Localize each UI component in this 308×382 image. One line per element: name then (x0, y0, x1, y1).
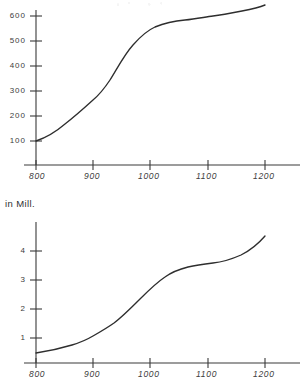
y-tick-label-200: 200 (4, 111, 26, 120)
line-chart-bottom (0, 195, 308, 382)
x-tick-label-1000: 1000 (138, 369, 160, 379)
y-tick-label-400: 400 (4, 61, 26, 70)
y-tick-label-4: 4 (8, 246, 26, 255)
x-tick-label-900: 900 (84, 171, 100, 181)
figure-container: 600 500 400 300 200 100 800 900 1000 110… (0, 0, 308, 382)
line-chart-top (0, 0, 308, 195)
y-tick-label-1: 1 (8, 333, 26, 342)
data-curve-top (36, 5, 265, 141)
x-tick-label-1100: 1100 (196, 171, 217, 181)
y-tick-label-500: 500 (4, 36, 26, 45)
y-tick-label-100: 100 (4, 136, 26, 145)
y-tick-label-600: 600 (4, 11, 26, 20)
x-tick-label-1100: 1100 (196, 369, 217, 379)
axes-top (24, 10, 300, 165)
x-tick-label-1200: 1200 (253, 369, 275, 379)
x-tick-label-1200: 1200 (253, 171, 275, 181)
x-tick-label-1000: 1000 (138, 171, 160, 181)
x-tick-label-900: 900 (84, 369, 100, 379)
y-tick-label-3: 3 (8, 275, 26, 284)
y-tick-label-300: 300 (4, 86, 26, 95)
chart-panel-top: 600 500 400 300 200 100 800 900 1000 110… (0, 0, 308, 195)
y-tick-label-2: 2 (8, 304, 26, 313)
x-tick-label-800: 800 (29, 369, 45, 379)
chart-panel-bottom: in Mill. 4 3 2 1 80 (0, 195, 308, 382)
data-curve-bottom (36, 236, 265, 353)
x-tick-label-800: 800 (29, 171, 45, 181)
